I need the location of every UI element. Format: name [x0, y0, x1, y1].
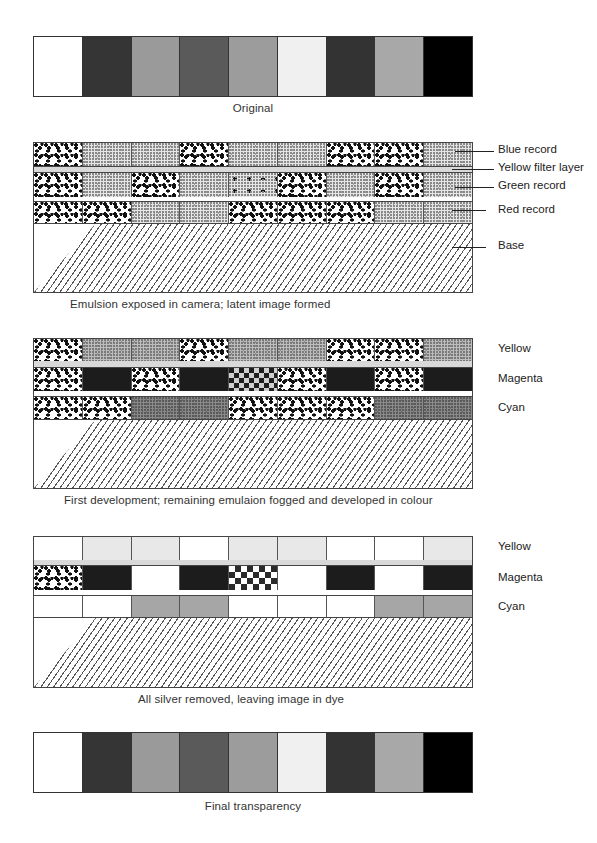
- layer-cell-coarse: [180, 339, 229, 361]
- layer-cell-gray: [424, 596, 472, 617]
- color-swatch: [34, 37, 83, 96]
- color-swatch: [278, 733, 327, 792]
- color-swatch: [132, 37, 181, 96]
- green-record-row: [33, 172, 473, 198]
- layer-cell-black: [180, 566, 229, 590]
- layer-cell-fine: [278, 143, 327, 166]
- layer-cell-lightgray: [278, 537, 327, 560]
- layer-cell-coarse: [34, 173, 83, 197]
- final-swatch-strip: [33, 732, 473, 793]
- label-magenta: Magenta: [498, 372, 543, 384]
- layer-cell-fine: [229, 143, 278, 166]
- color-swatch: [83, 37, 132, 96]
- layer-cell-lightgray: [424, 537, 472, 560]
- layer-cell-coarse: [34, 368, 83, 391]
- layer-cell-coarse: [229, 397, 278, 419]
- layer-cell-fine: [327, 173, 376, 197]
- label-blue-record: Blue record: [498, 143, 557, 155]
- layer-cell-sparse: [229, 173, 278, 197]
- layer-cell-coarse: [278, 368, 327, 391]
- layer-cell-black: [424, 368, 472, 391]
- color-swatch: [375, 37, 424, 96]
- layer-cell-fine-darker: [424, 397, 472, 419]
- layer-cell-coarse: [375, 173, 424, 197]
- cyan-dye-row: [33, 595, 473, 618]
- first-development-caption: First development; remaining emulaion fo…: [64, 494, 504, 506]
- base-hatch: [34, 224, 472, 292]
- layer-cell-coarse: [229, 202, 278, 223]
- layer-cell-coarse: [327, 397, 376, 419]
- leader-base: [452, 247, 486, 248]
- color-swatch: [180, 733, 229, 792]
- layer-cell-fine: [180, 173, 229, 197]
- layer-cell-fine: [424, 143, 472, 166]
- layer-cell-white: [278, 596, 327, 617]
- layer-cell-fine: [424, 173, 472, 197]
- layer-cell-white: [278, 566, 327, 590]
- layer-cell-fine: [83, 173, 132, 197]
- layer-cell-black: [83, 368, 132, 391]
- layer-cell-white: [34, 596, 83, 617]
- leader-green-record: [455, 187, 494, 188]
- layer-cell-fine: [83, 143, 132, 166]
- layer-cell-coarse: [34, 339, 83, 361]
- color-swatch: [424, 733, 472, 792]
- color-swatch: [83, 733, 132, 792]
- film-base: [33, 617, 473, 688]
- layer-cell-black: [424, 566, 472, 590]
- red-record-row: [33, 201, 473, 224]
- layer-cell-coarse: [375, 339, 424, 361]
- color-swatch: [34, 733, 83, 792]
- layer-cell-white: [180, 537, 229, 560]
- layer-cell-black: [327, 368, 376, 391]
- label-yellow: Yellow: [498, 540, 531, 552]
- yellow-dye-row: [33, 536, 473, 561]
- yellow-layer-row: [33, 338, 473, 362]
- layer-cell-coarse: [327, 202, 376, 223]
- cyan-layer-row: [33, 396, 473, 420]
- layer-cell-black: [83, 566, 132, 590]
- final-caption: Final transparency: [33, 800, 473, 812]
- layer-cell-fine-dark: [424, 339, 472, 361]
- layer-cell-fine-dark: [83, 339, 132, 361]
- layer-cell-coarse: [34, 566, 83, 590]
- label-base: Base: [498, 239, 524, 251]
- leader-yellow-filter: [452, 169, 494, 170]
- label-magenta: Magenta: [498, 571, 543, 583]
- layer-cell-black: [180, 368, 229, 391]
- layer-cell-fine: [180, 202, 229, 223]
- label-yellow: Yellow: [498, 342, 531, 354]
- layer-cell-coarse: [375, 368, 424, 391]
- layer-cell-coarse: [83, 202, 132, 223]
- layer-cell-fine-dark: [278, 339, 327, 361]
- leader-red-record: [452, 210, 486, 211]
- layer-cell-coarse: [34, 397, 83, 419]
- layer-cell-gray: [132, 596, 181, 617]
- layer-cell-coarse: [34, 143, 83, 166]
- film-base: [33, 223, 473, 293]
- color-swatch: [278, 37, 327, 96]
- silver-removed-caption: All silver removed, leaving image in dye: [138, 693, 578, 705]
- magenta-dye-row: [33, 565, 473, 591]
- layer-cell-checker-soft: [229, 368, 278, 391]
- layer-cell-coarse: [327, 143, 376, 166]
- layer-cell-coarse: [34, 202, 83, 223]
- color-swatch: [132, 733, 181, 792]
- label-cyan: Cyan: [498, 401, 525, 413]
- layer-cell-white: [229, 596, 278, 617]
- layer-cell-gray: [375, 596, 424, 617]
- layer-cell-white: [83, 596, 132, 617]
- layer-cell-fine-darker: [132, 397, 181, 419]
- color-swatch: [327, 37, 376, 96]
- layer-cell-coarse: [83, 397, 132, 419]
- label-yellow-filter-layer: Yellow filter layer: [498, 161, 584, 173]
- color-swatch: [180, 37, 229, 96]
- layer-cell-white: [327, 537, 376, 560]
- layer-cell-fine: [132, 202, 181, 223]
- layer-cell-fine-dark: [132, 339, 181, 361]
- layer-cell-coarse: [180, 143, 229, 166]
- layer-cell-checker: [229, 566, 278, 590]
- color-swatch: [229, 733, 278, 792]
- layer-cell-lightgray: [83, 537, 132, 560]
- layer-cell-coarse: [278, 202, 327, 223]
